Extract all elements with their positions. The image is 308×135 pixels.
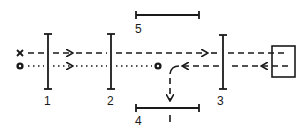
screen-4: 4 — [135, 104, 199, 128]
plate-2: 2 — [107, 34, 115, 108]
screen-4-label: 4 — [135, 114, 142, 128]
particle-dot-icon — [154, 62, 161, 69]
plate-2-label: 2 — [107, 94, 114, 108]
circled-dot-icon — [16, 62, 23, 69]
diagram-canvas: 1 2 3 5 4 — [0, 0, 308, 135]
plate-3-label: 3 — [217, 94, 224, 108]
screen-5: 5 — [135, 11, 199, 36]
plate-3: 3 — [217, 35, 227, 108]
source-box — [272, 46, 295, 77]
screen-5-label: 5 — [135, 22, 142, 36]
beam-dashed-return — [170, 66, 288, 100]
plate-1-label: 1 — [44, 94, 51, 108]
plate-1: 1 — [44, 34, 52, 108]
cross-marker-icon — [17, 50, 23, 56]
